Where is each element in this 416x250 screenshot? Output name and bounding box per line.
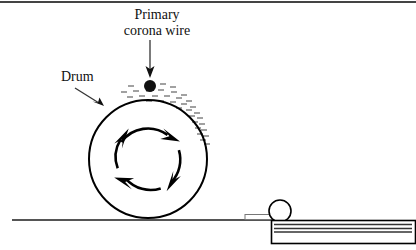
drum-leader <box>75 88 104 106</box>
diagram-canvas: Primary corona wire Drum <box>0 0 416 250</box>
feed-roller <box>269 200 291 222</box>
primary-corona-wire-label: Primary corona wire <box>112 7 202 38</box>
corona-wire-dot <box>144 80 156 92</box>
drum-circle <box>89 100 207 218</box>
corona-wire-leader <box>146 40 155 78</box>
corona-label-line2: corona wire <box>112 23 202 39</box>
corona-label-line1: Primary <box>112 7 202 23</box>
drum-label: Drum <box>61 69 94 85</box>
rotation-arrowheads <box>114 128 181 191</box>
printer-diagram <box>0 0 416 250</box>
